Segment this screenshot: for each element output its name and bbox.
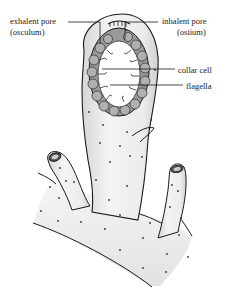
label-flagella: flagella xyxy=(186,81,211,91)
sponge-diagram xyxy=(0,0,228,302)
label-inhalent-pore: inhalent pore xyxy=(162,16,207,26)
label-ostium: (ostium) xyxy=(177,27,206,37)
right-tube xyxy=(158,164,186,238)
label-exhalent-pore: exhalent pore xyxy=(10,16,56,26)
label-collar-cell: collar cell xyxy=(178,65,212,75)
label-osculum: (osculum) xyxy=(10,27,44,37)
